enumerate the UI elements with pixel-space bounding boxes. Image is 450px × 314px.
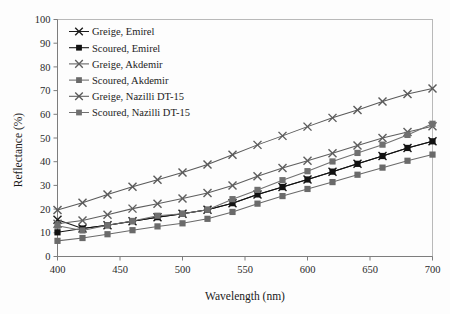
y-tick-label: 70 (40, 85, 51, 96)
data-marker-square (76, 77, 82, 83)
legend-label: Greige, Akdemir (92, 59, 163, 70)
data-marker-square (254, 201, 260, 207)
x-tick-label: 450 (112, 264, 128, 275)
data-marker-square (229, 209, 235, 215)
x-tick-label: 550 (237, 264, 253, 275)
data-marker-square (154, 223, 160, 229)
x-tick-label: 600 (300, 264, 316, 275)
y-axis-title: Reflectance (%) (12, 113, 25, 188)
legend-label: Scoured, Akdemir (92, 75, 169, 86)
y-tick-label: 90 (40, 38, 51, 49)
data-marker-square (429, 121, 435, 127)
chart-figure: 400450500550600650700 010203040506070809… (0, 0, 450, 314)
x-tick-label: 650 (362, 264, 378, 275)
data-marker-square (354, 150, 360, 156)
y-tick-label: 20 (40, 204, 51, 215)
plot-frame (58, 20, 433, 257)
data-marker-square (179, 211, 185, 217)
data-marker-square (404, 158, 410, 164)
y-tick-label: 0 (45, 251, 50, 262)
series-scoured-nazilli-dt-15 (54, 121, 435, 234)
data-marker-square (76, 45, 82, 51)
y-tick-label: 80 (40, 62, 51, 73)
plot-border (58, 20, 433, 257)
x-tick-label: 700 (425, 264, 441, 275)
legend-label: Scoured, Emirel (92, 43, 160, 54)
y-tick-label: 40 (40, 156, 51, 167)
data-marker-square (379, 142, 385, 148)
data-marker-square (76, 110, 82, 116)
series-greige-akdemir (54, 122, 437, 228)
chart-legend: Greige, EmirelScoured, EmirelGreige, Akd… (69, 26, 190, 118)
legend-label: Scoured, Nazilli DT-15 (92, 107, 190, 118)
data-marker-square (104, 222, 110, 228)
data-marker-square (329, 158, 335, 164)
legend-item-4[interactable]: Scoured, Akdemir (69, 75, 169, 86)
x-tick-label: 500 (175, 264, 191, 275)
legend-item-6[interactable]: Scoured, Nazilli DT-15 (69, 107, 190, 118)
data-marker-square (354, 161, 360, 167)
data-marker-square (204, 216, 210, 222)
y-tick-label: 30 (40, 180, 51, 191)
data-marker-square (429, 151, 435, 157)
legend-label: Greige, Emirel (92, 26, 154, 37)
data-marker-square (429, 138, 435, 144)
data-marker-square (304, 186, 310, 192)
x-tick-label: 400 (50, 264, 66, 275)
x-axis-ticks: 400450500550600650700 (50, 257, 441, 275)
data-marker-square (354, 172, 360, 178)
data-marker-square (404, 145, 410, 151)
data-marker-square (404, 132, 410, 138)
data-marker-square (154, 213, 160, 219)
data-marker-square (79, 227, 85, 233)
y-tick-label: 10 (40, 227, 51, 238)
data-marker-square (329, 169, 335, 175)
data-marker-square (279, 177, 285, 183)
series-line (58, 141, 433, 228)
y-axis-ticks: 0102030405060708090100 (35, 14, 58, 262)
data-marker-square (279, 184, 285, 190)
data-marker-square (129, 218, 135, 224)
data-marker-square (129, 227, 135, 233)
reflectance-line-chart: 400450500550600650700 010203040506070809… (0, 0, 450, 314)
y-tick-label: 50 (40, 133, 51, 144)
data-marker-square (54, 238, 60, 244)
series-line (58, 126, 433, 224)
data-marker-square (204, 207, 210, 213)
data-marker-square (179, 220, 185, 226)
y-tick-label: 100 (35, 14, 51, 25)
x-axis-title: Wavelength (nm) (205, 290, 285, 303)
legend-item-3[interactable]: Greige, Akdemir (69, 59, 163, 70)
data-marker-square (254, 187, 260, 193)
legend-item-5[interactable]: Greige, Nazilli DT-15 (69, 91, 184, 102)
y-tick-label: 60 (40, 109, 51, 120)
legend-item-1[interactable]: Greige, Emirel (69, 26, 154, 37)
series-line (58, 141, 433, 232)
legend-label: Greige, Nazilli DT-15 (92, 91, 184, 102)
data-marker-square (379, 165, 385, 171)
data-marker-square (279, 193, 285, 199)
legend-item-2[interactable]: Scoured, Emirel (69, 43, 160, 54)
data-marker-square (329, 179, 335, 185)
data-marker-square (54, 229, 60, 235)
data-marker-square (229, 196, 235, 202)
data-marker-square (379, 153, 385, 159)
data-marker-square (79, 235, 85, 241)
data-marker-square (304, 168, 310, 174)
data-marker-square (304, 176, 310, 182)
data-marker-square (104, 231, 110, 237)
series-line (58, 155, 433, 241)
data-marker-square (54, 223, 60, 229)
